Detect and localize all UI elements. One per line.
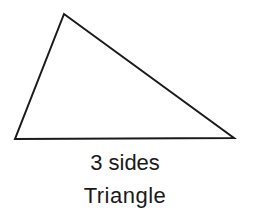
shape-name-label: Triangle (0, 185, 250, 207)
triangle-shape (0, 0, 254, 213)
sides-count-label: 3 sides (0, 152, 250, 174)
